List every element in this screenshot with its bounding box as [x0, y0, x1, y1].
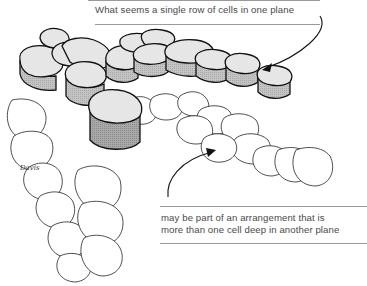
- deeper-plane-cells: [7, 92, 332, 282]
- arrow-top: [266, 16, 322, 68]
- arrow-bottom: [168, 152, 212, 197]
- cell-arrangement-illustration: Davis: [0, 0, 367, 286]
- artist-signature: Davis: [19, 164, 40, 172]
